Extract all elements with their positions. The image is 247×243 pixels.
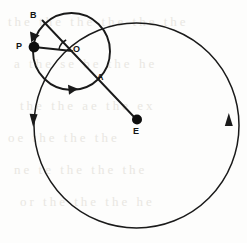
direction-arrow-epicycle-bottom [68,84,78,95]
direction-arrow-deferent-right [225,113,233,126]
label-P: P [16,42,22,51]
point-dots-group [29,42,142,125]
label-B: B [30,11,37,20]
epicycle-diagram [0,0,247,243]
label-E: E [133,127,139,136]
direction-arrow-deferent-left [29,114,37,127]
point-dot-E [132,115,142,125]
label-A: A [97,73,104,82]
line-P-to-O [34,47,72,51]
point-dot-P [29,42,40,53]
label-O: O [73,45,80,54]
lines-group [34,21,136,120]
